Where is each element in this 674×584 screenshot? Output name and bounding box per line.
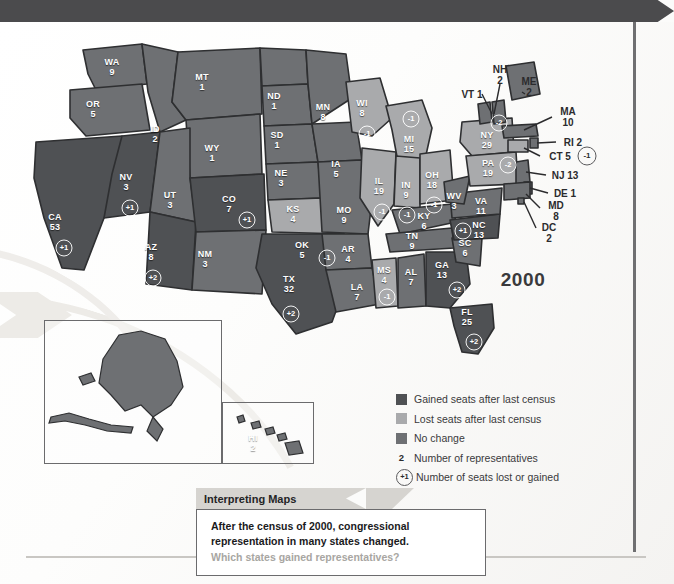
alaska-svg [45,321,221,463]
state-shape-in [394,156,420,208]
hawaii-shape-4 [285,441,303,455]
caption-tab-notch [346,488,366,509]
state-shape-nm [192,230,266,294]
hawaii-shape-2 [265,427,275,435]
hawaii-shape-0 [237,415,245,423]
callout-label-me: ME2 [522,76,537,98]
caption-question: Which states gained representatives? [211,550,473,565]
swatch-no-change-icon [396,433,407,444]
swatch-lost-icon [396,413,407,424]
legend-label-lost: Lost seats after last census [414,413,541,425]
caption-body: After the census of 2000, congressional … [196,509,486,576]
interpreting-maps-block: Interpreting Maps After the census of 20… [196,488,486,576]
callout-label-ma: MA10 [560,106,576,128]
map-legend: Gained seats after last census Lost seat… [396,390,626,488]
legend-item-lost: Lost seats after last census [396,410,626,428]
state-shape-vt [478,102,492,124]
state-shape-ri [530,138,538,148]
legend-label-gained: Gained seats after last census [414,393,555,405]
caption-line-1: After the census of 2000, congressional [211,519,473,534]
state-shape-al [398,254,426,308]
state-shape-fl [450,304,494,354]
legend-item-seat-change: +1 Number of seats lost or gained [396,468,626,486]
map-year-label: 2000 [501,269,546,291]
map-stage: WA9OR5CA53+1NV3+1ID2MT1WY1UT3AZ8+2CO7+1N… [0,22,640,532]
callout-label-de: DE 1 [554,188,576,199]
state-shape-ks [266,162,322,200]
state-shape-dc [518,198,524,204]
alaska-shape-3 [49,413,133,433]
alaska-shape-0 [99,331,183,417]
leader-line-ri [537,142,556,143]
caption-tab-point [392,488,414,509]
state-shape-nd [260,48,308,86]
state-shape-ne [264,124,318,164]
banner-notch [626,0,674,22]
state-shape-md [504,182,530,200]
hawaii-svg [223,403,313,463]
hawaii-shape-1 [251,421,261,429]
state-shape-wi [346,78,392,136]
state-shape-mt [172,48,262,120]
legend-label-representatives: Number of representatives [414,452,538,464]
textbook-page: WA9OR5CA53+1NV3+1ID2MT1WY1UT3AZ8+2CO7+1N… [0,0,674,584]
legend-label-seat-change: Number of seats lost or gained [416,471,559,483]
state-shape-sc [452,238,482,266]
leader-line-ma [524,117,552,130]
swatch-gained-icon [396,394,407,405]
legend-item-no-change: No change [396,429,626,447]
callout-label-dc: DC2 [542,222,556,244]
us-map-svg [0,22,640,362]
hawaii-inset [222,402,314,464]
state-shape-co [190,174,266,232]
legend-label-no-change: No change [414,432,465,444]
state-shape-az [146,212,196,290]
top-banner [0,0,674,22]
state-shape-ar [322,234,372,270]
us-map [0,22,640,362]
callout-label-vt: VT 1 [461,89,482,100]
callout-label-ri: RI 2 [564,137,582,148]
caption-tab: Interpreting Maps [196,488,392,509]
alaska-shape-1 [79,373,95,385]
leader-line-md [526,194,540,208]
callout-label-md: MD8 [548,200,564,222]
state-shape-ct [508,140,528,152]
state-shape-or [70,84,150,136]
hawaii-shape-3 [277,433,287,441]
callout-label-nh: NH2 [493,64,507,86]
state-shape-wa [83,44,147,90]
legend-item-representatives: 2 Number of representatives [396,449,626,467]
state-shape-ms [372,258,398,308]
caption-tab-title: Interpreting Maps [196,493,296,505]
legend-number-icon: 2 [396,452,407,463]
callout-label-nj: NJ 13 [552,170,579,181]
state-shape-tn [386,228,454,252]
callout-label-ct: CT 5 [549,151,571,162]
legend-item-gained: Gained seats after last census [396,390,626,408]
seat-change-badge-ct: -1 [578,147,597,166]
caption-line-2: representation in many states changed. [211,534,473,549]
state-shape-mn [306,50,352,124]
alaska-shape-2 [147,417,163,441]
state-shape-wy [186,114,262,178]
alaska-inset [44,320,222,464]
legend-circle-icon: +1 [396,469,413,486]
state-shape-la [326,268,380,312]
leader-line-dc [524,202,536,228]
state-shape-pa [466,152,518,186]
state-shape-sd [262,84,312,126]
